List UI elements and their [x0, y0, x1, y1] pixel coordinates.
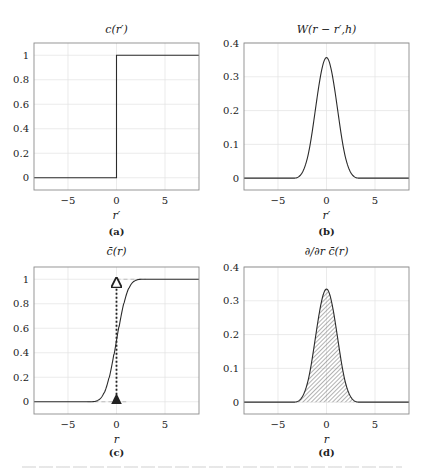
y-tick-label: 0.3	[223, 71, 239, 82]
x-tick-label: 0	[113, 195, 119, 206]
panel-title: c(r′)	[105, 23, 128, 36]
y-tick-label: 0	[233, 173, 239, 184]
figure-canvas: −50500.20.40.60.81c(r′)r′(a) −50500.10.2…	[0, 0, 424, 471]
y-tick-label: 0.6	[13, 99, 29, 110]
y-tick-label: 0	[233, 397, 239, 408]
figure-caption-clipped	[22, 466, 402, 468]
y-tick-label: 1	[23, 274, 29, 285]
y-tick-label: 0.4	[223, 38, 239, 49]
x-tick-label: −5	[61, 419, 76, 430]
x-tick-label: 5	[162, 419, 168, 430]
y-tick-label: 0.2	[13, 372, 29, 383]
grid-lines	[244, 43, 409, 190]
x-tick-label: −5	[61, 195, 76, 206]
panel-d-derivative: −50500.10.20.30.4∂/∂r c̄(r)r(d)	[223, 245, 409, 458]
panel-caption: (d)	[318, 447, 334, 458]
x-tick-label: −5	[271, 419, 286, 430]
x-tick-label: 0	[113, 419, 119, 430]
panel-title: W(r − r′,h)	[297, 23, 357, 36]
x-axis-label: r′	[323, 209, 331, 222]
panel-caption: (c)	[109, 447, 125, 458]
y-tick-label: 1	[23, 50, 29, 61]
panel-caption: (a)	[109, 226, 125, 237]
x-tick-label: 5	[162, 195, 168, 206]
x-axis-label: r	[324, 433, 330, 446]
y-tick-label: 0.8	[13, 74, 29, 85]
panel-c-smoothed-step: −50500.20.40.60.81c̄(r)r(c)	[13, 245, 199, 458]
figure: −50500.20.40.60.81c(r′)r′(a) −50500.10.2…	[0, 0, 424, 471]
panel-title: c̄(r)	[106, 245, 126, 258]
panel-a-step-function: −50500.20.40.60.81c(r′)r′(a)	[13, 23, 199, 237]
data-curve	[34, 55, 199, 178]
y-tick-label: 0.4	[223, 262, 239, 273]
x-tick-label: 0	[323, 419, 329, 430]
x-tick-label: 0	[323, 195, 329, 206]
y-tick-label: 0.6	[13, 323, 29, 334]
x-tick-label: 5	[372, 195, 378, 206]
y-tick-label: 0.2	[223, 105, 239, 116]
x-axis-label: r′	[113, 209, 121, 222]
panel-title: ∂/∂r c̄(r)	[305, 245, 349, 258]
panel-caption: (b)	[318, 226, 334, 237]
x-tick-label: 5	[372, 419, 378, 430]
y-tick-label: 0.8	[13, 298, 29, 309]
x-tick-label: −5	[271, 195, 286, 206]
y-tick-label: 0.2	[13, 148, 29, 159]
y-tick-label: 0.4	[13, 347, 29, 358]
y-tick-label: 0.1	[223, 363, 239, 374]
y-tick-label: 0.3	[223, 295, 239, 306]
y-tick-label: 0.2	[223, 329, 239, 340]
hatched-area	[244, 289, 409, 402]
panel-b-kernel: −50500.10.20.30.4W(r − r′,h)r′(b)	[223, 23, 409, 237]
y-tick-label: 0	[23, 396, 29, 407]
y-tick-label: 0	[23, 172, 29, 183]
x-axis-label: r	[114, 433, 120, 446]
y-tick-label: 0.1	[223, 139, 239, 150]
y-tick-label: 0.4	[13, 123, 29, 134]
